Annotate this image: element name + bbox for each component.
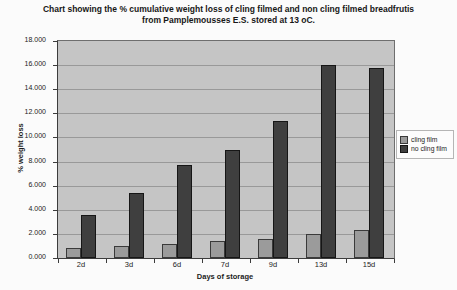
y-tick-label: 16.000 [25,60,46,68]
gridline-y-12 [58,113,394,114]
y-axis-tick [53,41,57,42]
bar-cling-film-3d [114,246,129,258]
chart-title-line1: Chart showing the % cumulative weight lo… [0,4,457,15]
x-tick-label-6d: 6d [153,260,201,269]
y-axis-tick [53,162,57,163]
bar-no-cling-film-2d [81,215,96,258]
bar-no-cling-film-3d [129,193,144,258]
legend-label-no-cling-film: no cling film [411,145,447,153]
gridline-y-14 [58,89,394,90]
y-axis-tick [53,65,57,66]
chart-figure: Chart showing the % cumulative weight lo… [0,0,457,290]
x-axis-tick [394,259,395,263]
x-axis-labels: 2d3d6d7d9d13d15d [57,260,393,270]
y-axis-labels: 0.0002.0004.0006.0008.00010.00012.00014.… [0,40,52,257]
bar-cling-film-15d [354,230,369,258]
legend-label-cling-film: cling film [411,136,437,144]
y-axis-tick [53,137,57,138]
y-tick-label: 18.000 [25,36,46,44]
bar-cling-film-7d [210,241,225,258]
y-tick-label: 6.000 [28,181,46,189]
y-tick-label: 10.000 [25,132,46,140]
y-axis-tick [53,89,57,90]
bar-no-cling-film-7d [225,150,240,259]
y-axis-tick [53,234,57,235]
legend-item-cling-film: cling film [400,136,450,144]
y-axis-tick [53,113,57,114]
bar-no-cling-film-6d [177,165,192,258]
x-axis-title: Days of storage [57,272,393,281]
bar-no-cling-film-13d [321,65,336,258]
gridline-y-10 [58,137,394,138]
y-tick-label: 8.000 [28,157,46,165]
y-axis-tick [53,210,57,211]
bar-cling-film-9d [258,239,273,258]
x-tick-label-13d: 13d [297,260,345,269]
plot-area [57,40,395,259]
x-tick-label-7d: 7d [201,260,249,269]
y-tick-label: 0.000 [28,253,46,261]
legend: cling film no cling film [396,130,454,159]
y-axis-tick [53,258,57,259]
chart-title-line2: from Pamplemousses E.S. stored at 13 oC. [0,15,457,26]
x-tick-label-9d: 9d [249,260,297,269]
legend-marker-cling-film-icon [400,136,408,144]
bar-no-cling-film-15d [369,68,384,258]
y-tick-label: 14.000 [25,84,46,92]
y-tick-label: 4.000 [28,205,46,213]
legend-item-no-cling-film: no cling film [400,145,450,153]
legend-marker-no-cling-film-icon [400,145,408,153]
y-tick-label: 12.000 [25,108,46,116]
gridline-y-16 [58,65,394,66]
y-axis-tick [53,186,57,187]
bar-no-cling-film-9d [273,121,288,258]
x-tick-label-15d: 15d [345,260,393,269]
x-tick-label-2d: 2d [57,260,105,269]
x-tick-label-3d: 3d [105,260,153,269]
bar-cling-film-2d [66,248,81,258]
bar-cling-film-13d [306,234,321,258]
bar-cling-film-6d [162,244,177,258]
y-tick-label: 2.000 [28,229,46,237]
